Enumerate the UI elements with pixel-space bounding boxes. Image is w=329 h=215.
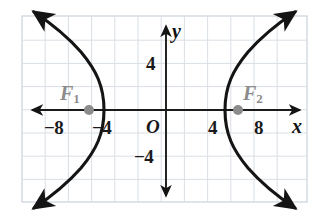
focus-label-f1-index: 1 [73, 91, 80, 106]
focus-label-f2-letter: F [243, 82, 256, 104]
focus-label-f1-letter: F [60, 82, 73, 104]
focus-point-f1 [84, 105, 94, 115]
focus-label-f2-index: 2 [256, 91, 263, 106]
x-tick-label-8: 8 [254, 118, 263, 137]
hyperbola-figure: −8 −4 4 8 4 −4 O y x F1 F2 [0, 0, 329, 215]
focus-label-f1: F1 [60, 83, 80, 103]
grid-panel [22, 16, 307, 202]
x-tick-label-minus8: −8 [44, 118, 63, 137]
origin-label: O [146, 117, 160, 136]
x-axis-label: x [292, 116, 302, 136]
focus-label-f2: F2 [243, 83, 263, 103]
y-tick-label-minus4: −4 [134, 147, 153, 166]
focus-point-f2 [233, 105, 243, 115]
coordinate-plane [0, 0, 329, 215]
x-tick-label-minus4: −4 [92, 118, 111, 137]
grid-border [22, 16, 307, 202]
y-axis-label: y [172, 21, 181, 41]
x-tick-label-4: 4 [208, 118, 217, 137]
y-tick-label-4: 4 [146, 54, 155, 73]
